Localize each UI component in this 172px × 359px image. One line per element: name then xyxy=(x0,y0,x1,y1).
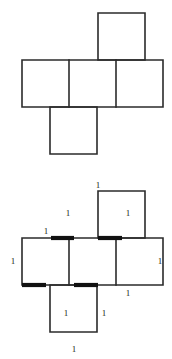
label-bottom-right: 1 xyxy=(102,308,107,318)
cube-net-unlabeled-figure xyxy=(0,0,172,178)
label-left-top: 1 xyxy=(44,226,49,236)
face-bottom xyxy=(50,107,97,154)
label-left-left: 1 xyxy=(11,256,16,266)
face-bottom xyxy=(50,285,97,332)
label-right-right: 1 xyxy=(158,256,163,266)
label-top-top: 1 xyxy=(96,180,101,190)
net-faces-group xyxy=(22,13,163,154)
face-left xyxy=(22,238,69,285)
label-top-right: 1 xyxy=(126,208,131,218)
figure-container: 1 1 1 1 1 1 1 1 1 1 xyxy=(0,0,172,359)
cube-net-labeled-figure: 1 1 1 1 1 1 1 1 1 1 xyxy=(0,178,172,359)
net-faces-group-labeled xyxy=(22,191,163,332)
label-bottom-bottom: 1 xyxy=(72,344,77,354)
face-right xyxy=(116,238,163,285)
label-right-bottom: 1 xyxy=(126,288,131,298)
face-top xyxy=(98,191,145,238)
label-top-left: 1 xyxy=(66,208,71,218)
label-bottom-left: 1 xyxy=(64,308,69,318)
face-front xyxy=(69,60,116,107)
face-top xyxy=(98,13,145,60)
face-left xyxy=(22,60,69,107)
face-right xyxy=(116,60,163,107)
face-front xyxy=(69,238,116,285)
